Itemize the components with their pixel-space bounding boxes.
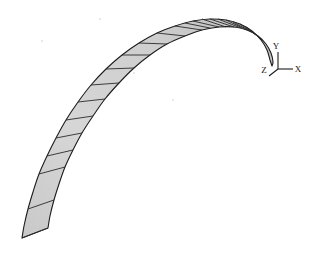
y-axis-label: Y <box>273 41 280 51</box>
scan-speck <box>133 72 135 74</box>
strip-fill <box>22 19 273 238</box>
rule-line <box>246 27 262 40</box>
figure-canvas: Y X Z <box>0 0 319 257</box>
curved-surface-figure: Y X Z <box>0 0 319 257</box>
scan-speck <box>172 99 174 101</box>
scan-speck <box>99 18 101 20</box>
scan-speck <box>41 40 43 42</box>
z-axis-line <box>269 69 278 76</box>
z-axis-label: Z <box>261 65 267 75</box>
x-axis-label: X <box>295 64 302 74</box>
ruled-surface-strip <box>22 19 273 238</box>
